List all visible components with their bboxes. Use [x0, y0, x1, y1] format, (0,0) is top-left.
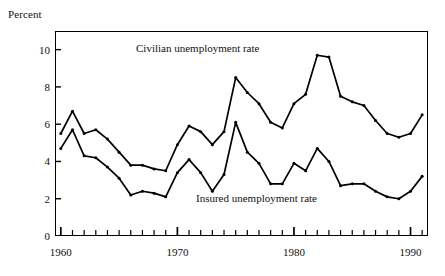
data-point-civilian	[234, 76, 237, 79]
data-point-civilian	[129, 164, 132, 167]
data-point-civilian	[304, 93, 307, 96]
data-point-civilian	[327, 56, 330, 59]
data-point-insured	[71, 128, 74, 131]
data-point-insured	[421, 175, 424, 178]
data-point-civilian	[94, 128, 97, 131]
series-line-insured	[61, 122, 422, 198]
data-point-insured	[141, 190, 144, 193]
y-axis-tick-label: 6	[45, 118, 51, 130]
data-point-civilian	[211, 143, 214, 146]
data-point-civilian	[176, 143, 179, 146]
data-point-insured	[304, 169, 307, 172]
data-point-civilian	[421, 113, 424, 116]
data-point-insured	[386, 195, 389, 198]
y-axis-tick-label: 4	[45, 155, 51, 167]
data-point-civilian	[118, 151, 121, 154]
y-axis-tick-label: 0	[45, 230, 51, 242]
x-axis-tick-label: 1960	[50, 246, 72, 258]
x-axis-tick-labels: 1960197019801990	[55, 246, 428, 262]
data-point-insured	[374, 190, 377, 193]
data-point-civilian	[292, 102, 295, 105]
data-point-insured	[223, 173, 226, 176]
data-point-insured	[351, 182, 354, 185]
data-point-civilian	[153, 167, 156, 170]
data-point-insured	[188, 158, 191, 161]
data-point-insured	[83, 154, 86, 157]
data-point-insured	[257, 162, 260, 165]
data-point-insured	[269, 182, 272, 185]
data-point-insured	[292, 162, 295, 165]
data-point-civilian	[164, 169, 167, 172]
x-axis-tick-label: 1970	[166, 246, 188, 258]
data-point-insured	[246, 151, 249, 154]
data-point-insured	[409, 190, 412, 193]
series-label-insured: Insured unemployment rate	[196, 192, 317, 204]
data-point-civilian	[83, 132, 86, 135]
data-point-insured	[327, 160, 330, 163]
data-point-insured	[199, 171, 202, 174]
data-point-civilian	[71, 110, 74, 113]
data-point-civilian	[409, 132, 412, 135]
data-point-insured	[59, 147, 62, 150]
data-point-civilian	[223, 130, 226, 133]
data-point-civilian	[257, 102, 260, 105]
y-axis-title: Percent	[8, 8, 42, 20]
series-line-civilian	[61, 55, 422, 171]
y-axis-tick-labels: 0246810	[26, 31, 50, 236]
y-axis-tick-label: 2	[45, 193, 51, 205]
data-point-insured	[129, 194, 132, 197]
data-point-insured	[362, 182, 365, 185]
x-axis-tick-label: 1990	[400, 246, 422, 258]
data-point-civilian	[362, 104, 365, 107]
y-axis-tick-label: 10	[39, 44, 50, 56]
data-point-civilian	[351, 100, 354, 103]
data-point-insured	[164, 195, 167, 198]
data-point-civilian	[386, 132, 389, 135]
data-point-civilian	[188, 125, 191, 128]
y-axis-tick-label: 8	[45, 81, 51, 93]
data-point-insured	[397, 197, 400, 200]
data-point-insured	[234, 121, 237, 124]
data-point-civilian	[339, 95, 342, 98]
data-point-insured	[339, 184, 342, 187]
data-point-insured	[281, 182, 284, 185]
chart-series-svg	[55, 31, 428, 236]
x-axis-tick-label: 1980	[283, 246, 305, 258]
data-point-civilian	[199, 130, 202, 133]
data-point-insured	[176, 171, 179, 174]
data-point-civilian	[316, 54, 319, 57]
data-point-civilian	[281, 126, 284, 129]
unemployment-rate-chart-figure: Percent 0246810 1960197019801990 Civilia…	[0, 0, 445, 276]
data-point-insured	[106, 166, 109, 169]
series-label-civilian: Civilian unemployment rate	[136, 42, 259, 54]
data-point-insured	[94, 156, 97, 159]
data-point-civilian	[106, 138, 109, 141]
data-point-insured	[118, 177, 121, 180]
data-point-civilian	[397, 136, 400, 139]
data-point-civilian	[59, 132, 62, 135]
data-point-civilian	[141, 164, 144, 167]
data-point-insured	[153, 192, 156, 195]
plot-area	[55, 31, 428, 236]
data-point-insured	[316, 147, 319, 150]
data-point-civilian	[374, 119, 377, 122]
data-point-civilian	[246, 91, 249, 94]
data-point-civilian	[269, 121, 272, 124]
